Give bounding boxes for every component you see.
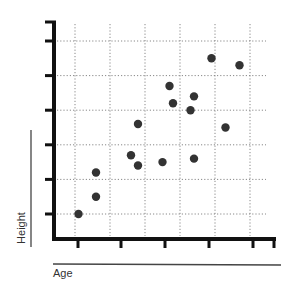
y-axis-label: Height <box>15 208 27 248</box>
x-axis-label: Age <box>53 267 73 279</box>
data-point <box>127 151 135 159</box>
data-point <box>92 168 100 176</box>
data-point <box>158 158 166 166</box>
scatter-chart <box>0 0 293 296</box>
data-point <box>190 92 198 100</box>
data-points <box>74 54 243 218</box>
grid-lines <box>57 24 266 236</box>
data-point <box>169 99 177 107</box>
data-point <box>190 154 198 162</box>
data-point <box>74 210 82 218</box>
data-point <box>186 106 194 114</box>
data-point <box>134 120 142 128</box>
x-label-line <box>53 264 281 265</box>
data-point <box>92 193 100 201</box>
data-point <box>221 123 229 131</box>
data-point <box>165 82 173 90</box>
data-point <box>207 54 215 62</box>
data-point <box>134 161 142 169</box>
data-point <box>235 61 243 69</box>
